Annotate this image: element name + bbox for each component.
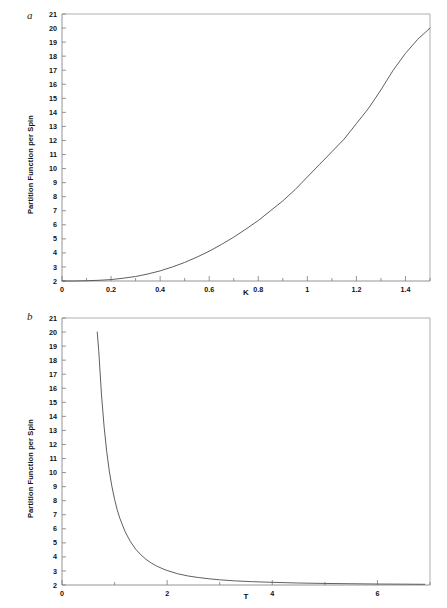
y-tick-label: 6 bbox=[53, 524, 57, 533]
y-tick-label: 8 bbox=[53, 192, 57, 201]
y-tick-label: 21 bbox=[49, 10, 57, 19]
x-tick-label: 6 bbox=[375, 589, 379, 598]
y-tick-label: 20 bbox=[49, 24, 57, 33]
panel-a: a Partition Function per Spin K 23456789… bbox=[0, 0, 447, 304]
figure-partition-function: a Partition Function per Spin K 23456789… bbox=[0, 0, 447, 608]
x-tick-label: 1.2 bbox=[351, 285, 361, 294]
y-tick-label: 14 bbox=[49, 412, 57, 421]
y-tick-label: 16 bbox=[49, 80, 57, 89]
y-tick-label: 9 bbox=[53, 178, 57, 187]
y-tick-label: 5 bbox=[53, 538, 57, 547]
y-tick-label: 16 bbox=[49, 384, 57, 393]
y-tick-label: 13 bbox=[49, 426, 57, 435]
y-tick-label: 19 bbox=[49, 38, 57, 47]
y-tick-label: 4 bbox=[53, 552, 57, 561]
panel-b: b Partition Function per Spin T 23456789… bbox=[0, 300, 447, 608]
y-tick-label: 2 bbox=[53, 581, 57, 590]
y-tick-label: 7 bbox=[53, 510, 57, 519]
y-tick-label: 4 bbox=[53, 248, 57, 257]
data-curve bbox=[97, 332, 425, 584]
y-tick-label: 18 bbox=[49, 356, 57, 365]
y-tick-label: 21 bbox=[49, 314, 57, 323]
x-tick-label: 1 bbox=[305, 285, 309, 294]
x-tick-label: 1.4 bbox=[400, 285, 410, 294]
y-tick-label: 17 bbox=[49, 370, 57, 379]
panel-b-plot: 234567891011121314151617181920210246 bbox=[0, 300, 447, 608]
y-tick-label: 13 bbox=[49, 122, 57, 131]
y-tick-label: 8 bbox=[53, 496, 57, 505]
y-tick-label: 12 bbox=[49, 440, 57, 449]
y-tick-label: 18 bbox=[49, 52, 57, 61]
x-tick-label: 0.6 bbox=[204, 285, 214, 294]
x-tick-label: 0 bbox=[60, 589, 64, 598]
y-tick-label: 2 bbox=[53, 277, 57, 286]
y-tick-label: 17 bbox=[49, 66, 57, 75]
y-tick-label: 12 bbox=[49, 136, 57, 145]
y-tick-label: 6 bbox=[53, 220, 57, 229]
y-tick-label: 15 bbox=[49, 398, 57, 407]
x-tick-label: 2 bbox=[165, 589, 169, 598]
y-tick-label: 9 bbox=[53, 482, 57, 491]
y-tick-label: 19 bbox=[49, 342, 57, 351]
y-tick-label: 7 bbox=[53, 206, 57, 215]
x-tick-label: 0.2 bbox=[106, 285, 116, 294]
y-tick-label: 11 bbox=[49, 150, 57, 159]
y-tick-label: 5 bbox=[53, 234, 57, 243]
x-tick-label: 0 bbox=[60, 285, 64, 294]
x-tick-label: 4 bbox=[270, 589, 274, 598]
y-tick-label: 14 bbox=[49, 108, 57, 117]
x-tick-label: 0.4 bbox=[155, 285, 165, 294]
y-tick-label: 10 bbox=[49, 468, 57, 477]
data-curve bbox=[62, 28, 430, 281]
y-tick-label: 3 bbox=[53, 567, 57, 576]
y-tick-label: 3 bbox=[53, 263, 57, 272]
panel-a-plot: 2345678910111213141516171819202100.20.40… bbox=[0, 0, 447, 304]
x-tick-label: 0.8 bbox=[253, 285, 263, 294]
y-tick-label: 20 bbox=[49, 328, 57, 337]
y-tick-label: 15 bbox=[49, 94, 57, 103]
y-tick-label: 10 bbox=[49, 164, 57, 173]
y-tick-label: 11 bbox=[49, 454, 57, 463]
